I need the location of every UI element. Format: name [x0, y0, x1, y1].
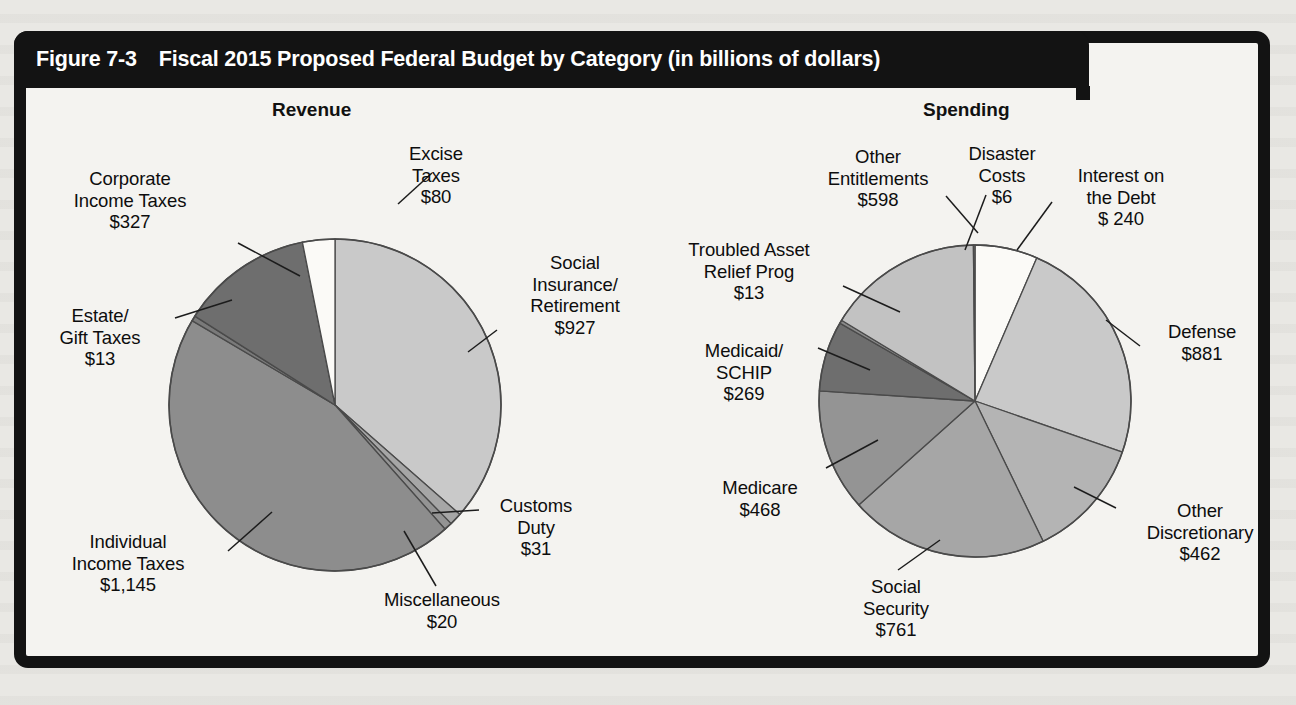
label-corporate-income-taxes: Corporate Income Taxes $327 — [32, 168, 228, 233]
label-excise-taxes: Excise Taxes $80 — [381, 143, 491, 208]
label-customs-duty: Customs Duty $31 — [481, 495, 591, 560]
label-other-discretionary: Other Discretionary $462 — [1120, 500, 1280, 565]
label-individual-income-taxes: Individual Income Taxes $1,145 — [30, 531, 226, 596]
label-social-security: Social Security $761 — [832, 576, 960, 641]
label-estate-gift-taxes: Estate/ Gift Taxes $13 — [26, 305, 174, 370]
label-disaster-costs: Disaster Costs $6 — [953, 143, 1051, 208]
spending-panel-heading: Spending — [923, 99, 1010, 121]
label-medicaid-schip: Medicaid/ SCHIP $269 — [670, 340, 818, 405]
label-other-entitlements: Other Entitlements $598 — [801, 146, 955, 211]
label-medicare: Medicare $468 — [690, 477, 830, 520]
label-miscellaneous: Miscellaneous $20 — [353, 589, 531, 632]
figure-number: Figure 7-3 — [36, 47, 137, 71]
label-interest-on-the-debt: Interest on the Debt $ 240 — [1056, 165, 1186, 230]
label-troubled-asset-relief-prog: Troubled Asset Relief Prog $13 — [655, 239, 843, 304]
label-defense: Defense $881 — [1146, 321, 1258, 364]
label-social-insurance-retirement: Social Insurance/ Retirement $927 — [500, 252, 650, 338]
figure-title-text: Fiscal 2015 Proposed Federal Budget by C… — [159, 47, 881, 71]
revenue-panel-heading: Revenue — [272, 99, 351, 121]
figure-title: Figure 7-3Fiscal 2015 Proposed Federal B… — [36, 31, 880, 88]
